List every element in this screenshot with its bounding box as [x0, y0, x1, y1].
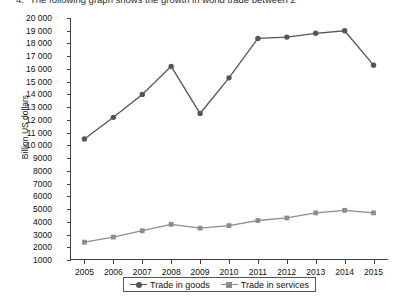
data-point[interactable] — [198, 226, 203, 231]
line-chart-figure: Billion US dollars 20 00019 00018 00017 … — [0, 12, 403, 303]
data-point[interactable] — [168, 64, 173, 69]
legend-item-services[interactable]: Trade in services — [221, 280, 309, 290]
y-axis-tick-label: 13 000 — [0, 103, 52, 112]
data-point[interactable] — [313, 31, 318, 36]
data-point[interactable] — [169, 222, 174, 227]
data-point[interactable] — [255, 36, 260, 41]
data-point[interactable] — [284, 34, 289, 39]
series-line-goods — [84, 31, 373, 139]
x-axis-tick — [113, 260, 114, 264]
data-point[interactable] — [111, 235, 116, 240]
y-axis-tick-label: 7000 — [0, 180, 52, 189]
x-axis-tick — [258, 260, 259, 264]
x-axis-tick — [171, 260, 172, 264]
y-axis-tick-label: 1000 — [0, 256, 52, 265]
y-axis-tick-label: 18 000 — [0, 39, 52, 48]
y-axis-tick-label: 20 000 — [0, 14, 52, 23]
y-axis-tick-label: 8000 — [0, 167, 52, 176]
y-axis-tick-label: 17 000 — [0, 52, 52, 61]
data-point[interactable] — [227, 223, 232, 228]
question-prompt: 4.The following graph shows the growth i… — [16, 0, 403, 7]
y-axis-tick-label: 2000 — [0, 243, 52, 252]
x-axis-tick — [200, 260, 201, 264]
data-point[interactable] — [342, 28, 347, 33]
data-point[interactable] — [371, 62, 376, 67]
series-layer — [70, 18, 388, 260]
y-axis-tick-label: 11 000 — [0, 129, 52, 138]
y-axis-tick-label: 19 000 — [0, 27, 52, 36]
x-axis-tick-label: 2015 — [356, 268, 392, 277]
x-axis-tick — [345, 260, 346, 264]
data-point[interactable] — [313, 210, 318, 215]
y-axis-tick-label: 4000 — [0, 218, 52, 227]
y-axis-tick-label: 12 000 — [0, 116, 52, 125]
plot-area: 20 00019 00018 00017 00016 00015 00014 0… — [70, 18, 388, 260]
legend-marker-circle-icon — [130, 280, 147, 289]
data-point[interactable] — [197, 111, 202, 116]
x-axis-tick — [142, 260, 143, 264]
y-axis-tick-label: 6000 — [0, 192, 52, 201]
data-point[interactable] — [111, 115, 116, 120]
chart-legend: Trade in goods Trade in services — [123, 277, 316, 292]
question-number: 4. — [16, 0, 30, 7]
x-axis-tick — [229, 260, 230, 264]
data-point[interactable] — [82, 136, 87, 141]
legend-marker-square-icon — [221, 280, 238, 289]
data-point[interactable] — [342, 208, 347, 213]
data-point[interactable] — [140, 228, 145, 233]
data-point[interactable] — [82, 240, 87, 245]
x-axis-tick — [84, 260, 85, 264]
y-axis-tick-label: 9000 — [0, 154, 52, 163]
data-point[interactable] — [284, 216, 289, 221]
x-axis-tick — [316, 260, 317, 264]
data-point[interactable] — [140, 92, 145, 97]
data-point[interactable] — [371, 210, 376, 215]
y-axis-tick-label: 14 000 — [0, 90, 52, 99]
legend-item-goods[interactable]: Trade in goods — [130, 280, 210, 290]
legend-label-goods: Trade in goods — [150, 280, 210, 290]
y-axis-tick-label: 16 000 — [0, 65, 52, 74]
x-axis-tick — [374, 260, 375, 264]
data-point[interactable] — [226, 75, 231, 80]
y-axis-tick — [67, 260, 71, 261]
y-axis-tick-label: 5000 — [0, 205, 52, 214]
legend-label-services: Trade in services — [241, 280, 309, 290]
question-text: The following graph shows the growth in … — [30, 0, 296, 5]
y-axis-tick-label: 15 000 — [0, 78, 52, 87]
x-axis-tick — [287, 260, 288, 264]
data-point[interactable] — [256, 218, 261, 223]
y-axis-tick-label: 3000 — [0, 231, 52, 240]
y-axis-tick-label: 10 000 — [0, 141, 52, 150]
